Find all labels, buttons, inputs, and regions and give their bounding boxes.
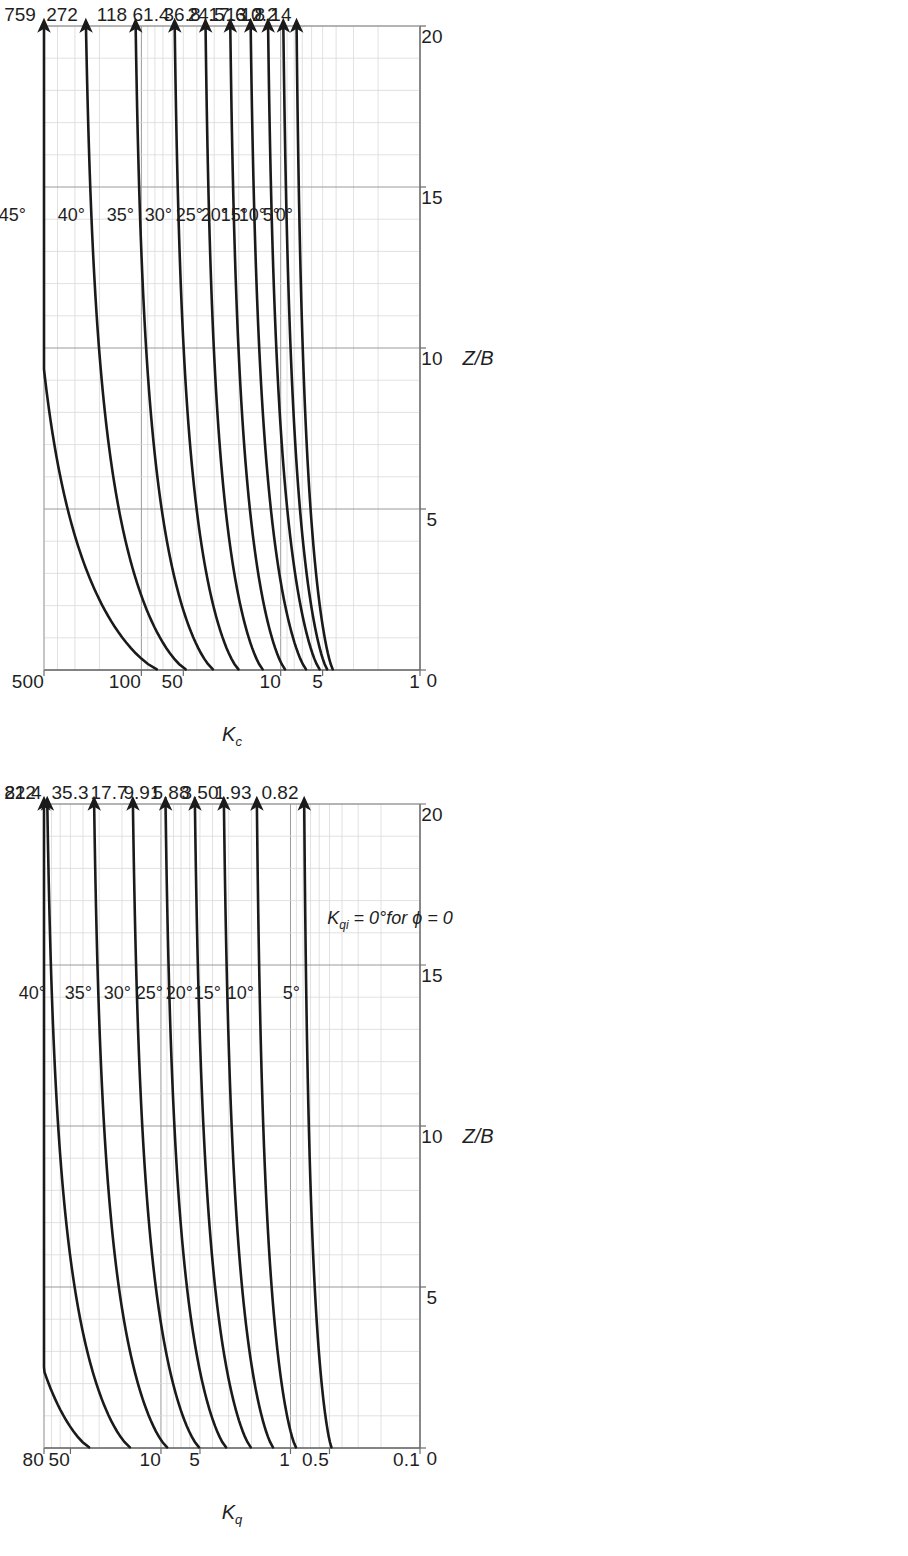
curve-end-value: 1.93	[214, 782, 251, 804]
curve-angle-label: 5°	[283, 982, 300, 1003]
x-tick-label: 15	[421, 965, 443, 987]
y-tick-label: 1	[409, 671, 420, 693]
y-tick-label: 10	[259, 671, 281, 693]
y-tick-label: 50	[162, 671, 184, 693]
x-tick-label: 20	[421, 26, 443, 48]
chart-kq-plot	[0, 778, 454, 1556]
y-axis-title-sub: q	[235, 1512, 242, 1527]
curve-angle-label: 35°	[65, 982, 92, 1003]
y-tick-label: 1	[280, 1449, 291, 1471]
curve-angle-label: 45°	[0, 204, 26, 225]
y-axis-title: Kq	[222, 1501, 243, 1527]
curve-end-value: 272	[46, 4, 78, 26]
y-tick-label: 500	[12, 671, 44, 693]
curve-angle-label: 40°	[18, 982, 45, 1003]
chart-kc-plot	[0, 0, 454, 778]
y-tick-label: 5	[189, 1449, 200, 1471]
curve-angle-label: 10°	[238, 204, 265, 225]
curve-end-value: 3.50	[181, 782, 218, 804]
x-tick-label: 5	[427, 1287, 438, 1309]
x-tick-label: 10	[421, 348, 443, 370]
note-rest: = 0°for ϕ = 0	[349, 908, 453, 928]
curve-angle-label: 40°	[58, 204, 85, 225]
curve-end-value: 8.14	[254, 4, 291, 26]
y-tick-label: 0.5	[302, 1449, 329, 1471]
y-tick-label: 10	[139, 1449, 161, 1471]
curve-angle-label: 15°	[194, 982, 221, 1003]
x-tick-label: 20	[421, 804, 443, 826]
x-axis-title: Z/B	[462, 1125, 493, 1148]
x-tick-label: 10	[421, 1126, 443, 1148]
curve-end-value: 759	[4, 4, 36, 26]
curve-angle-label: 20°	[165, 982, 192, 1003]
curve-end-value: 81.4	[5, 782, 42, 804]
curve-angle-label: 30°	[145, 204, 172, 225]
curve-angle-label: 10°	[226, 982, 253, 1003]
y-axis-title-main: K	[222, 1501, 235, 1523]
curve-end-value: 118	[96, 4, 126, 26]
y-axis-title-main: K	[222, 723, 235, 745]
y-tick-label: 0.1	[393, 1449, 420, 1471]
chart-kq: 22245°81.440°35.335°17.730°9.9125°5.8820…	[0, 778, 454, 1556]
curve-end-value: 35.3	[52, 782, 89, 804]
chart-kc: 75945°27240°11835°61.430°36.825°24.520°1…	[0, 0, 454, 778]
chart-note: Kqi = 0°for ϕ = 0	[327, 908, 453, 932]
x-tick-label: 5	[427, 509, 438, 531]
figure-page: 75945°27240°11835°61.430°36.825°24.520°1…	[0, 0, 908, 1556]
x-tick-label: 0	[427, 670, 438, 692]
x-axis-title: Z/B	[462, 347, 493, 370]
curve-angle-label: 0°	[276, 204, 293, 225]
y-tick-label: 50	[49, 1449, 71, 1471]
curve-angle-label: 25°	[136, 982, 163, 1003]
curve-angle-label: 35°	[107, 204, 134, 225]
x-tick-label: 15	[421, 187, 443, 209]
y-axis-title: Kc	[222, 723, 242, 749]
curve-angle-label: 30°	[104, 982, 131, 1003]
y-tick-label: 5	[312, 671, 323, 693]
y-tick-label: 100	[109, 671, 141, 693]
x-tick-label: 0	[427, 1448, 438, 1470]
curve-end-value: 0.82	[262, 782, 299, 804]
y-axis-title-sub: c	[235, 734, 242, 749]
curve-angle-label: 25°	[176, 204, 203, 225]
y-tick-label: 80	[22, 1449, 44, 1471]
note-main: K	[327, 908, 339, 928]
curve-end-value: 17.7	[90, 782, 127, 804]
